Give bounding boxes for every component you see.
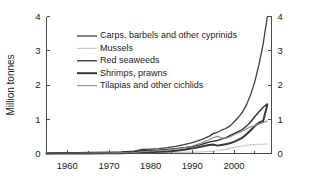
y-axis-title: Million tonnes [5, 54, 16, 115]
legend-label-3: Shrimps, prawns [100, 68, 168, 78]
chart-container: 012340123419601970198019902000 Million t… [0, 0, 313, 186]
y-tick-label-right-2: 2 [278, 79, 283, 90]
x-tick-label-0: 1960 [57, 160, 78, 171]
y-tick-label-left-1: 1 [35, 114, 40, 125]
chart-legend: Carps, barbels and other cyprinidsMussel… [77, 30, 238, 90]
y-tick-label-right-1: 1 [278, 114, 283, 125]
y-tick-label-left-4: 4 [35, 11, 40, 22]
legend-label-1: Mussels [100, 43, 134, 53]
y-tick-label-right-3: 3 [278, 45, 283, 56]
series-line-3 [47, 105, 268, 154]
y-tick-label-left-3: 3 [35, 45, 40, 56]
x-tick-label-4: 2000 [223, 160, 244, 171]
y-axis-title-text: Million tonnes [5, 54, 16, 115]
legend-label-0: Carps, barbels and other cyprinids [100, 30, 238, 40]
y-tick-label-left-2: 2 [35, 79, 40, 90]
y-tick-label-right-0: 0 [278, 148, 283, 159]
line-chart: 012340123419601970198019902000 Million t… [0, 0, 313, 186]
y-tick-label-left-0: 0 [35, 148, 40, 159]
y-tick-label-right-4: 4 [278, 11, 283, 22]
x-tick-label-1: 1970 [98, 160, 119, 171]
legend-label-2: Red seaweeds [100, 55, 160, 65]
x-tick-label-2: 1980 [140, 160, 161, 171]
legend-label-4: Tilapias and other cichlids [100, 80, 204, 90]
x-tick-label-3: 1990 [182, 160, 203, 171]
series-line-2 [47, 104, 268, 154]
